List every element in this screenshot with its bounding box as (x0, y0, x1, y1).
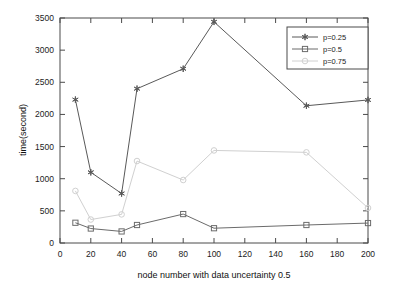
figure-container: 0500100015002000250030003500 02040608010… (0, 0, 394, 290)
x-tick-label: 200 (361, 249, 375, 259)
x-tick-label: 60 (148, 249, 158, 259)
x-axis-label: node number with data uncertainty 0.5 (137, 270, 290, 280)
chart-legend: p=0.25p=0.5p=0.75 (287, 27, 368, 69)
y-tick-label: 3500 (35, 13, 54, 23)
series-line (75, 150, 368, 219)
y-tick-label: 2000 (35, 109, 54, 119)
x-tick-label: 40 (117, 249, 127, 259)
y-tick-label: 0 (49, 238, 54, 248)
x-tick-label: 0 (58, 249, 63, 259)
y-tick-label: 500 (40, 206, 54, 216)
y-axis-label: time(second) (18, 104, 28, 156)
legend-label: p=0.5 (323, 45, 342, 54)
series-p075 (73, 148, 371, 223)
x-tick-label: 140 (269, 249, 283, 259)
y-tick-label: 1000 (35, 174, 54, 184)
x-tick-label: 180 (330, 249, 344, 259)
line-chart: 0500100015002000250030003500 02040608010… (0, 0, 394, 290)
legend-label: p=0.25 (323, 33, 346, 42)
x-tick-label: 120 (238, 249, 252, 259)
x-tick-label: 20 (86, 249, 96, 259)
legend-label: p=0.75 (323, 57, 346, 66)
x-tick-label: 80 (178, 249, 188, 259)
x-tick-label: 100 (207, 249, 221, 259)
y-tick-label: 2500 (35, 77, 54, 87)
y-tick-label: 1500 (35, 142, 54, 152)
y-tick-label: 3000 (35, 45, 54, 55)
x-tick-label: 160 (299, 249, 313, 259)
circle-marker (73, 188, 79, 194)
